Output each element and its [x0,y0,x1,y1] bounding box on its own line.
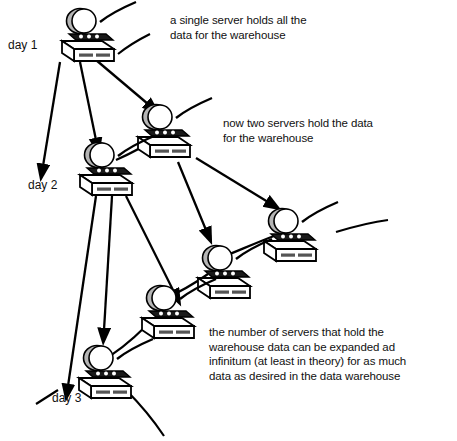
annotation-single-server: a single server holds all the data for t… [170,13,306,42]
server-icon [198,239,272,298]
day-3-label: day 3 [52,391,81,405]
annotation-two-servers: now two servers hold the data for the wa… [223,116,373,145]
day-1-label: day 1 [8,38,37,52]
server-icon [79,339,153,398]
server-icon [62,2,136,61]
server-icon [138,98,212,157]
day-2-label: day 2 [28,178,57,192]
annotation-scaling: the number of servers that hold the ware… [209,325,406,383]
server-icon [264,202,338,261]
